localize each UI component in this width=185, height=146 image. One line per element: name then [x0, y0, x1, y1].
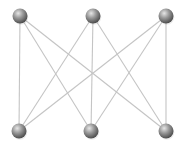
node-t1 [13, 9, 28, 24]
edges-layer [19, 16, 166, 131]
graph-svg [0, 0, 185, 146]
node-t3 [159, 9, 174, 24]
edge-t1-b1 [19, 16, 20, 131]
node-b1 [12, 124, 27, 139]
node-b3 [159, 124, 174, 139]
node-b2 [84, 124, 99, 139]
node-t2 [86, 9, 101, 24]
graph-diagram [0, 0, 185, 146]
